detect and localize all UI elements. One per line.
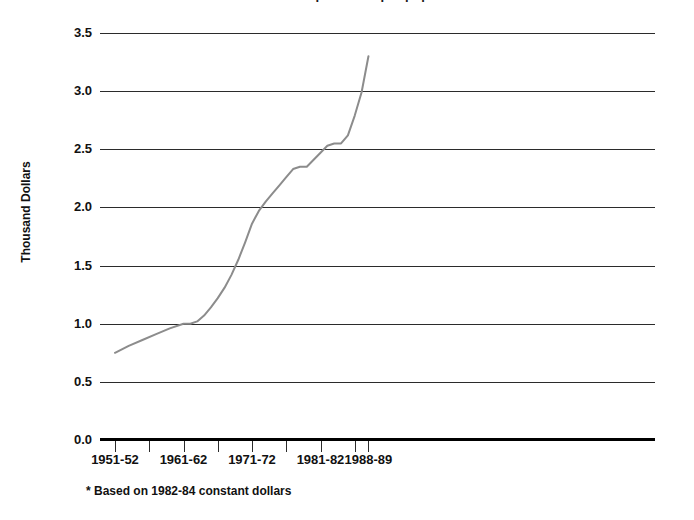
y-axis-tick-label: 2.5 (36, 142, 92, 155)
x-axis-tick-mark (184, 441, 185, 452)
y-axis-tick-label: 3.5 (36, 26, 92, 39)
y-axis-tick-label: 0.0 (36, 433, 92, 446)
x-axis-tick-mark (115, 441, 116, 452)
x-axis-tick-mark (252, 441, 253, 452)
chart-container: Annual expenditure per pupil* Thousand D… (0, 0, 694, 520)
chart-title: Annual expenditure per pupil* (0, 0, 694, 2)
series-polyline (115, 56, 368, 353)
data-series-line-chart (100, 33, 655, 440)
x-axis-tick-mark (321, 441, 322, 452)
x-axis-tick-label: 1988-89 (308, 452, 428, 467)
x-axis-tick-mark (368, 441, 369, 452)
x-axis-minor-tick-mark (355, 441, 356, 452)
footnote-text: * Based on 1982-84 constant dollars (86, 484, 291, 498)
y-axis-tick-label: 1.5 (36, 259, 92, 272)
x-axis-minor-tick-mark (149, 441, 150, 452)
x-axis-minor-tick-mark (218, 441, 219, 452)
y-axis-tick-label: 1.0 (36, 317, 92, 330)
y-axis-tick-label: 3.0 (36, 84, 92, 97)
y-axis-tick-label: 0.5 (36, 375, 92, 388)
x-axis-minor-tick-mark (286, 441, 287, 452)
y-axis-tick-label: 2.0 (36, 200, 92, 213)
y-axis-tick-labels: 3.53.02.52.01.51.00.50.0 (30, 0, 92, 440)
